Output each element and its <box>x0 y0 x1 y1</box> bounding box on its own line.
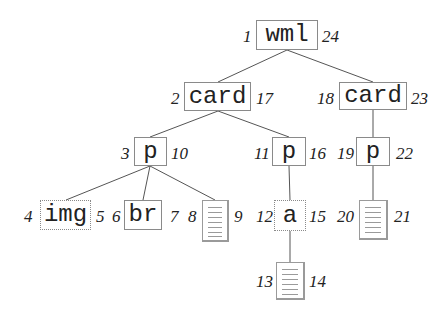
post-order-number: 14 <box>309 273 326 290</box>
pre-order-number: 6 <box>112 208 121 225</box>
tree-diagram: 1 wml 24 2 card 17 18 card 23 3 p 10 11 … <box>0 0 448 315</box>
edge-wml-card1 <box>218 50 287 82</box>
post-order-number: 23 <box>411 90 428 107</box>
node-a: a <box>274 200 306 231</box>
text-document-icon <box>359 200 388 240</box>
edge-p1-br <box>143 166 150 200</box>
pre-order-number: 3 <box>121 145 130 162</box>
node-p: p <box>134 137 167 166</box>
node-label: wml <box>265 23 308 47</box>
node-p: p <box>356 137 390 166</box>
post-order-number: 9 <box>234 208 243 225</box>
node-label: img <box>44 203 87 227</box>
post-order-number: 15 <box>309 208 326 225</box>
edge-p1-text1 <box>150 166 215 200</box>
edge-p2-a <box>289 166 290 200</box>
edge-card1-p1 <box>150 111 218 137</box>
edge-wml-card2 <box>287 50 373 82</box>
post-order-number: 7 <box>170 208 179 225</box>
node-label: p <box>366 140 380 164</box>
post-order-number: 5 <box>96 208 105 225</box>
edge-card1-p2 <box>218 111 289 137</box>
pre-order-number: 4 <box>24 208 33 225</box>
node-label: card <box>189 85 247 109</box>
node-label: p <box>143 140 157 164</box>
pre-order-number: 20 <box>337 208 354 225</box>
node-wml: wml <box>256 20 318 50</box>
post-order-number: 17 <box>256 90 273 107</box>
post-order-number: 16 <box>309 145 326 162</box>
node-p: p <box>272 137 306 166</box>
node-label: card <box>344 84 402 108</box>
edge-p1-img <box>66 166 150 200</box>
text-document-icon <box>276 262 305 300</box>
node-label: br <box>129 203 158 227</box>
pre-order-number: 8 <box>188 208 197 225</box>
pre-order-number: 2 <box>171 90 180 107</box>
pre-order-number: 18 <box>317 90 334 107</box>
post-order-number: 21 <box>394 208 411 225</box>
post-order-number: 10 <box>171 145 188 162</box>
node-label: p <box>282 140 296 164</box>
pre-order-number: 12 <box>256 208 273 225</box>
node-label: a <box>283 204 297 228</box>
node-card: card <box>339 82 407 110</box>
pre-order-number: 1 <box>243 28 252 45</box>
node-card: card <box>184 82 251 111</box>
node-img: img <box>40 200 91 230</box>
text-document-icon <box>202 200 229 242</box>
node-br: br <box>124 200 162 230</box>
pre-order-number: 13 <box>256 273 273 290</box>
pre-order-number: 11 <box>254 145 270 162</box>
post-order-number: 24 <box>322 28 339 45</box>
post-order-number: 22 <box>396 145 413 162</box>
pre-order-number: 19 <box>337 145 354 162</box>
